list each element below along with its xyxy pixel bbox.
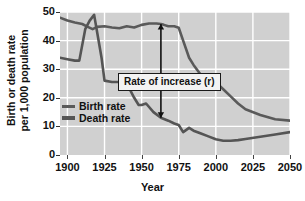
legend-item-birth-rate: Birth rate: [62, 100, 130, 112]
annotation-rate-of-increase: Rate of increase (r): [118, 73, 221, 91]
annotation-label: Rate of increase (r): [124, 76, 215, 87]
x-tick-mark: [67, 155, 68, 159]
legend-item-death-rate: Death rate: [62, 112, 130, 124]
x-tick-label: 1925: [88, 161, 122, 173]
x-axis-title: Year: [0, 181, 305, 193]
y-tick-label: 30: [33, 62, 55, 74]
y-tick-mark: [56, 155, 60, 156]
x-tick-label: 1900: [50, 161, 84, 173]
chart-figure: Birth or death rate per 1,000 population…: [0, 0, 305, 201]
x-tick-mark: [142, 155, 143, 159]
x-tick-label: 1950: [125, 161, 159, 173]
x-tick-mark: [105, 155, 106, 159]
y-tick-label: 40: [33, 34, 55, 46]
legend-label-death-rate: Death rate: [79, 112, 130, 124]
y-tick-label: 10: [33, 119, 55, 131]
y-tick-label: 0: [33, 148, 55, 160]
x-tick-mark: [290, 155, 291, 159]
legend-swatch-death-rate: [62, 116, 75, 120]
y-axis-label-line2: per 1,000 population: [17, 29, 30, 131]
x-tick-mark: [216, 155, 217, 159]
x-tick-mark: [179, 155, 180, 159]
legend: Birth rate Death rate: [62, 100, 130, 124]
x-tick-label: 1975: [162, 161, 196, 173]
annotation-arrow: [158, 24, 164, 118]
y-axis-label-line1: Birth or death rate: [5, 34, 17, 125]
x-tick-label: 2000: [199, 161, 233, 173]
y-tick-label: 20: [33, 91, 55, 103]
legend-label-birth-rate: Birth rate: [79, 100, 126, 112]
x-tick-label: 2050: [273, 161, 305, 173]
x-tick-label: 2025: [236, 161, 270, 173]
y-tick-label: 50: [33, 5, 55, 17]
y-axis-label: Birth or death rate per 1,000 population: [0, 0, 34, 160]
x-tick-mark: [253, 155, 254, 159]
legend-swatch-birth-rate: [62, 105, 75, 108]
